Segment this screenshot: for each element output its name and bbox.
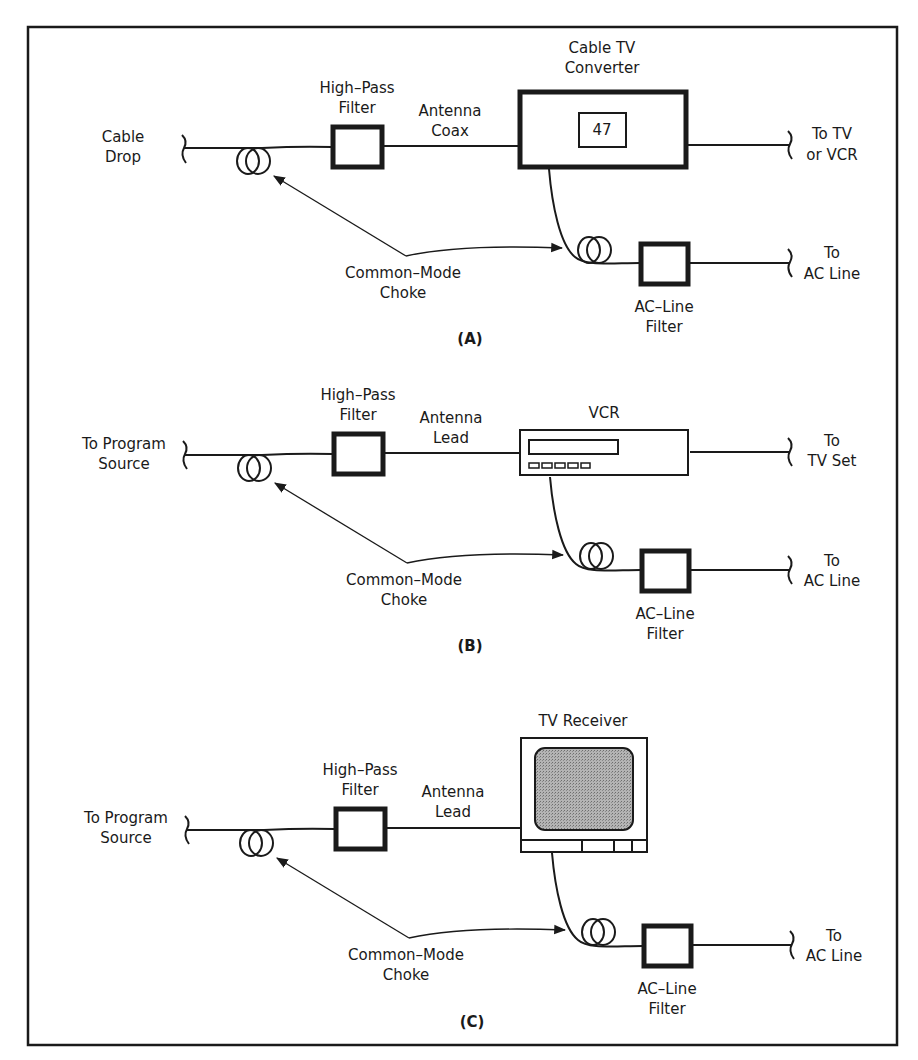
common-mode-choke-icon [578, 237, 611, 263]
acfilter-label: AC–Line [637, 980, 696, 998]
highpass-label: Filter [339, 406, 377, 424]
device-label: Converter [565, 59, 641, 77]
highpass-label: Filter [341, 781, 379, 799]
acfilter-label: AC–Line [635, 605, 694, 623]
choke-pointer-arrow [407, 554, 563, 563]
highpass-label: Filter [338, 99, 376, 117]
panel-caption: (C) [460, 1013, 485, 1031]
panel-caption: (B) [457, 637, 482, 655]
link-label: Antenna [421, 783, 484, 801]
source-label: To Program [83, 809, 168, 827]
output-label: TV Set [807, 452, 857, 470]
common-mode-choke-icon [582, 919, 615, 945]
acfilter-label: Filter [646, 625, 684, 643]
panel-a: Cable Drop High–Pass Filter Antenna Coax… [102, 39, 861, 348]
ac-label: AC Line [804, 265, 861, 283]
choke-pointer-arrow [274, 176, 406, 256]
figure-border [28, 27, 897, 1045]
choke-pointer-arrow [406, 247, 562, 256]
acfilter-label: Filter [645, 318, 683, 336]
acfilter-label: AC–Line [634, 298, 693, 316]
source-label: Drop [105, 148, 141, 166]
panel-b: To Program Source High–Pass Filter Anten… [81, 386, 860, 655]
common-mode-choke-icon [580, 543, 613, 569]
cable-end-brace-icon [788, 438, 792, 466]
panel-c: To Program Source High–Pass Filter Anten… [83, 712, 862, 1031]
device-label: Cable TV [569, 39, 637, 57]
device-label: TV Receiver [537, 712, 628, 730]
ac-line-filter-box [644, 926, 691, 966]
power-cord [552, 853, 643, 946]
choke-label: Choke [381, 591, 428, 609]
source-label: Source [98, 455, 150, 473]
choke-label: Common–Mode [345, 264, 461, 282]
common-mode-choke-icon [238, 455, 271, 481]
choke-pointer-arrow [275, 483, 407, 563]
link-label: Coax [431, 122, 469, 140]
source-label: Source [100, 829, 152, 847]
device-label: VCR [588, 404, 619, 422]
output-label: or VCR [806, 146, 857, 164]
panel-caption: (A) [457, 330, 482, 348]
ac-line-filter-box [642, 551, 689, 591]
channel-number: 47 [592, 121, 611, 139]
link-label: Antenna [418, 102, 481, 120]
choke-label: Choke [380, 284, 427, 302]
common-mode-choke-icon [240, 830, 273, 856]
output-label: To [823, 432, 840, 450]
power-cord [550, 477, 641, 570]
ac-label: AC Line [804, 572, 861, 590]
cable-end-brace-icon [788, 556, 792, 584]
cable-end-brace-icon [790, 931, 794, 959]
highpass-filter-box [334, 434, 383, 474]
highpass-filter-box [336, 809, 385, 849]
link-label: Lead [435, 803, 471, 821]
highpass-label: High–Pass [319, 79, 394, 97]
choke-label: Choke [383, 966, 430, 984]
choke-pointer-arrow [409, 929, 565, 938]
common-mode-choke-icon [237, 148, 270, 174]
tv-receiver-icon [521, 738, 647, 852]
source-label: Cable [102, 128, 145, 146]
ac-label: To [823, 552, 840, 570]
highpass-label: High–Pass [320, 386, 395, 404]
power-cord [549, 169, 640, 263]
ac-line-filter-box [641, 244, 688, 284]
ac-label: To [823, 244, 840, 262]
highpass-filter-box [333, 127, 382, 167]
interference-filtering-diagram: Cable Drop High–Pass Filter Antenna Coax… [0, 0, 918, 1060]
ac-label: AC Line [806, 947, 863, 965]
choke-label: Common–Mode [348, 946, 464, 964]
vcr-buttons [529, 463, 590, 468]
source-label: To Program [81, 435, 166, 453]
highpass-label: High–Pass [322, 761, 397, 779]
cable-end-brace-icon [788, 249, 792, 277]
choke-pointer-arrow [277, 858, 409, 938]
ac-label: To [825, 927, 842, 945]
link-label: Lead [433, 429, 469, 447]
choke-label: Common–Mode [346, 571, 462, 589]
acfilter-label: Filter [648, 1000, 686, 1018]
link-label: Antenna [419, 409, 482, 427]
vcr-display [529, 440, 618, 454]
output-label: To TV [811, 125, 853, 143]
cable-end-brace-icon [788, 131, 792, 159]
